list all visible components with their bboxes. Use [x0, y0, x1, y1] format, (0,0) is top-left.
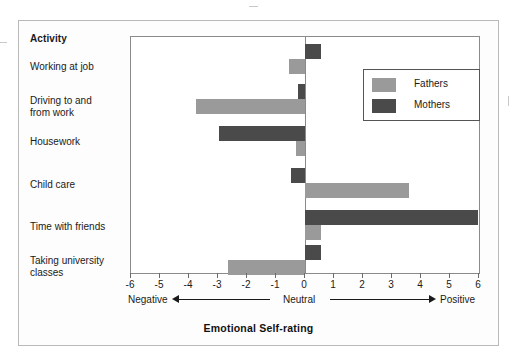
- x-tick-7: [333, 273, 334, 278]
- scan-artifact-left: [0, 42, 7, 43]
- negative-arrow-line: [178, 299, 270, 300]
- scan-artifact-right: [508, 96, 509, 106]
- bar-fathers-2: [296, 141, 305, 156]
- x-tick-label-7: 1: [323, 279, 343, 290]
- x-tick-label-4: -2: [236, 279, 256, 290]
- bar-fathers-0: [289, 59, 305, 74]
- x-tick-label-6: 0: [294, 279, 314, 290]
- x-tick-5: [275, 273, 276, 278]
- x-tick-label-12: 6: [468, 279, 488, 290]
- x-tick-4: [246, 273, 247, 278]
- bar-mothers-1: [298, 84, 305, 99]
- activity-label-column: Activity Working at jobDriving to andfro…: [30, 33, 130, 273]
- x-tick-label-0: -6: [120, 279, 140, 290]
- bar-mothers-4: [305, 210, 478, 225]
- axis-annotation-negative: Negative: [128, 294, 167, 305]
- x-axis-title: Emotional Self-rating: [0, 322, 517, 334]
- x-tick-10: [420, 273, 421, 278]
- chart-legend: Fathers Mothers: [363, 69, 480, 121]
- bar-mothers-2: [219, 126, 305, 141]
- x-tick-0: [130, 273, 131, 278]
- x-tick-2: [188, 273, 189, 278]
- x-tick-label-5: -1: [265, 279, 285, 290]
- category-label-line: Driving to and: [30, 95, 134, 107]
- x-tick-12: [478, 273, 479, 278]
- legend-swatch-fathers: [372, 78, 396, 92]
- bar-mothers-3: [291, 168, 306, 183]
- legend-label-mothers: Mothers: [414, 99, 450, 110]
- negative-arrow-head-icon: [172, 295, 179, 303]
- x-tick-label-10: 4: [410, 279, 430, 290]
- bar-mothers-5: [305, 245, 321, 260]
- positive-arrow-head-icon: [429, 295, 436, 303]
- x-tick-9: [391, 273, 392, 278]
- category-label-3: Child care: [30, 179, 134, 191]
- x-tick-6: [304, 273, 305, 278]
- scan-artifact-top: [249, 6, 258, 7]
- chart-screenshot: Activity Working at jobDriving to andfro…: [0, 0, 517, 362]
- positive-arrow-line: [330, 299, 430, 300]
- category-label-2: Housework: [30, 136, 134, 148]
- category-label-5: Taking universityclasses: [30, 255, 134, 278]
- category-label-0: Working at job: [30, 61, 134, 73]
- plot-area: Fathers Mothers: [130, 36, 480, 274]
- x-tick-label-11: 5: [439, 279, 459, 290]
- x-tick-label-1: -5: [149, 279, 169, 290]
- axis-annotation-positive: Positive: [440, 294, 475, 305]
- x-tick-8: [362, 273, 363, 278]
- category-label-line: classes: [30, 267, 134, 279]
- bar-fathers-3: [305, 183, 409, 198]
- category-label-1: Driving to andfrom work: [30, 95, 134, 118]
- category-label-4: Time with friends: [30, 221, 134, 233]
- x-tick-3: [217, 273, 218, 278]
- x-tick-label-3: -3: [207, 279, 227, 290]
- category-label-line: Taking university: [30, 255, 134, 267]
- x-tick-label-8: 2: [352, 279, 372, 290]
- category-label-line: Working at job: [30, 61, 134, 73]
- x-tick-11: [449, 273, 450, 278]
- x-tick-label-9: 3: [381, 279, 401, 290]
- category-label-line: Time with friends: [30, 221, 134, 233]
- x-tick-1: [159, 273, 160, 278]
- axis-annotation-neutral: Neutral: [283, 294, 315, 305]
- legend-swatch-mothers: [372, 99, 396, 113]
- bar-mothers-0: [305, 44, 321, 59]
- activity-column-header: Activity: [30, 33, 67, 44]
- legend-label-fathers: Fathers: [414, 78, 448, 89]
- bar-fathers-1: [196, 99, 305, 114]
- bar-fathers-4: [305, 225, 321, 240]
- category-label-line: Housework: [30, 136, 134, 148]
- category-label-line: Child care: [30, 179, 134, 191]
- category-label-line: from work: [30, 107, 134, 119]
- x-tick-label-2: -4: [178, 279, 198, 290]
